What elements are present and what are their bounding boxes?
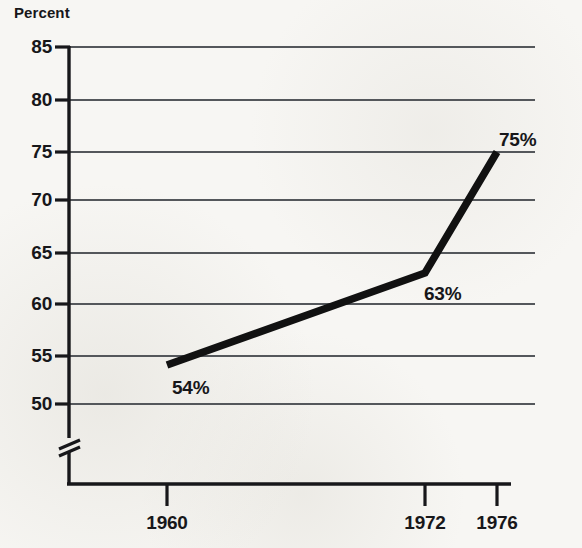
x-tick-label-1976: 1976 xyxy=(467,512,527,534)
line-chart: Percent xyxy=(0,0,582,548)
gridlines xyxy=(68,47,535,404)
data-point-label-1976: 75% xyxy=(499,129,536,151)
x-axis-ticks xyxy=(167,484,497,506)
data-point-label-1960: 54% xyxy=(172,377,209,399)
x-tick-label-1960: 1960 xyxy=(137,512,197,534)
chart-plot-area xyxy=(0,0,582,548)
data-line-series xyxy=(167,152,497,365)
x-tick-label-1972: 1972 xyxy=(395,512,455,534)
y-tick-label-70: 70 xyxy=(14,189,52,211)
y-tick-label-75: 75 xyxy=(14,141,52,163)
y-tick-label-85: 85 xyxy=(14,36,52,58)
y-tick-label-55: 55 xyxy=(14,345,52,367)
y-tick-label-65: 65 xyxy=(14,242,52,264)
y-tick-label-50: 50 xyxy=(14,393,52,415)
y-tick-label-60: 60 xyxy=(14,293,52,315)
y-tick-label-80: 80 xyxy=(14,89,52,111)
data-point-label-1972: 63% xyxy=(424,283,461,305)
